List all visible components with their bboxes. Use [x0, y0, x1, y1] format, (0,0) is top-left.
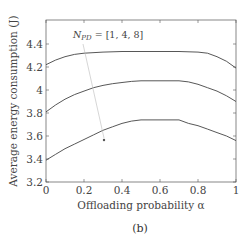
x-tick-label: 1: [233, 184, 240, 196]
y-tick-label: 3.2: [26, 176, 43, 188]
arrow-head-icon: [103, 139, 105, 141]
y-tick-label: 4.4: [26, 38, 43, 50]
y-tick-label: 3.4: [26, 153, 43, 165]
x-tick-label: 0.6: [152, 184, 169, 196]
y-axis-label: Average energy consumption (J): [7, 15, 19, 187]
y-tick-labels: 3.23.43.63.844.24.4: [26, 38, 43, 188]
x-tick-label: 0: [43, 184, 50, 196]
x-tick-label: 0.4: [114, 184, 131, 196]
x-tick-label: 0.8: [190, 184, 207, 196]
x-tick-labels: 00.20.40.60.81: [43, 184, 240, 196]
y-tick-label: 4.2: [26, 61, 43, 73]
figure-caption: (b): [132, 222, 148, 235]
plot-area: [46, 20, 236, 182]
y-tick-label: 4: [36, 84, 43, 96]
x-axis-label: Offloading probability α: [77, 199, 204, 211]
y-tick-label: 3.6: [26, 130, 43, 142]
x-tick-label: 0.2: [76, 184, 93, 196]
y-tick-label: 3.8: [26, 107, 43, 119]
line-chart: 00.20.40.60.81 3.23.43.63.844.24.4 NPD =…: [0, 0, 249, 244]
